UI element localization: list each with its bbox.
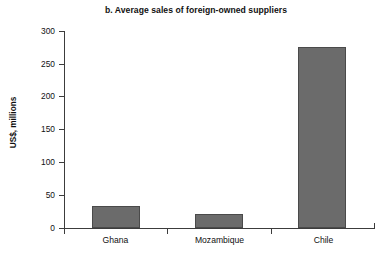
x-separator-tick-1 xyxy=(167,229,168,234)
y-axis-line xyxy=(64,31,65,229)
y-tick-mark-200 xyxy=(59,96,64,97)
y-tick-mark-100 xyxy=(59,162,64,163)
y-tick-label-200: 200 xyxy=(0,92,55,100)
x-category-label-ghana: Ghana xyxy=(76,235,155,245)
y-tick-mark-250 xyxy=(59,64,64,65)
y-tick-label-0: 0 xyxy=(0,224,55,232)
x-axis-end-tick xyxy=(374,223,375,229)
bar-ghana[interactable] xyxy=(92,206,140,228)
y-tick-mark-150 xyxy=(59,129,64,130)
bar-chile[interactable] xyxy=(298,47,346,228)
y-tick-label-50: 50 xyxy=(0,191,55,199)
x-separator-tick-0 xyxy=(64,229,65,234)
x-axis-line xyxy=(64,228,375,229)
y-tick-label-250: 250 xyxy=(0,60,55,68)
y-tick-mark-300 xyxy=(59,31,64,32)
x-category-label-mozambique: Mozambique xyxy=(180,235,259,245)
x-separator-tick-2 xyxy=(271,229,272,234)
y-tick-label-150: 150 xyxy=(0,125,55,133)
y-tick-mark-50 xyxy=(59,195,64,196)
bar-mozambique[interactable] xyxy=(195,214,243,228)
chart-title: b. Average sales of foreign-owned suppli… xyxy=(0,5,392,15)
y-tick-label-100: 100 xyxy=(0,158,55,166)
x-category-label-chile: Chile xyxy=(284,235,363,245)
y-tick-label-300: 300 xyxy=(0,27,55,35)
